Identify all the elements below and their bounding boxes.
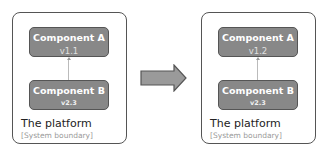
component-a-name: Component A: [219, 32, 297, 43]
component-b-before: Component B v2.3: [29, 80, 109, 110]
boundary-subtitle-before: [System boundary]: [21, 131, 93, 140]
dependency-arrowhead-icon: [256, 57, 260, 60]
boundary-title-before: The platform: [21, 117, 92, 130]
dependency-line-after: [257, 60, 258, 80]
right-arrow-icon: [139, 64, 189, 92]
component-b-version: v2.3: [219, 98, 297, 108]
component-a-name: Component A: [30, 32, 108, 43]
boundary-title-after: The platform: [210, 117, 281, 130]
boundary-subtitle-after: [System boundary]: [210, 131, 282, 140]
component-a-version: v1.2: [219, 46, 297, 56]
component-b-after: Component B v2.3: [218, 80, 298, 110]
dependency-arrowhead-icon: [67, 57, 71, 60]
component-b-name: Component B: [219, 85, 297, 96]
component-b-version: v2.3: [30, 98, 108, 108]
component-a-after: Component A v1.2: [218, 27, 298, 57]
dependency-line-before: [68, 60, 69, 80]
component-a-version: v1.1: [30, 46, 108, 56]
component-b-name: Component B: [30, 85, 108, 96]
component-a-before: Component A v1.1: [29, 27, 109, 57]
